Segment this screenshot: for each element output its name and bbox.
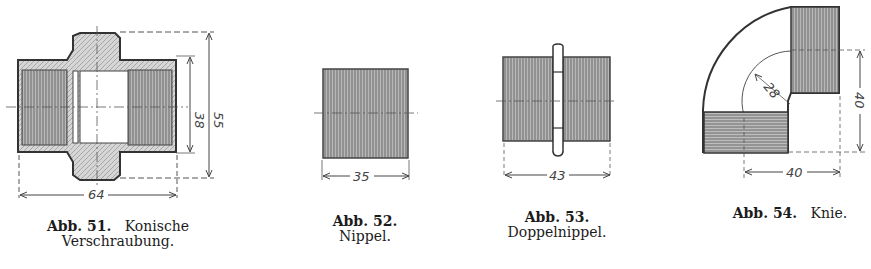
fig53-drawing [496, 44, 616, 181]
fig52-number: Abb. 52. [305, 214, 425, 229]
fig54-dim-height: 40 [852, 92, 867, 109]
fig51-drawing [6, 26, 214, 201]
fig51-dim-width: 64 [88, 187, 105, 202]
fig53-dim-width: 43 [549, 168, 566, 183]
fig54-title: Knie. [811, 205, 848, 221]
fig52-title: Nippel. [305, 229, 425, 244]
fig51-dim-inner: 38 [192, 112, 207, 129]
fig51-title-line1: Konische [125, 218, 189, 234]
fig54-number: Abb. 54. [733, 205, 798, 221]
fig51-number: Abb. 51. [47, 218, 112, 234]
fig51-title-line2: Verschraubung. [18, 234, 218, 249]
fig53-caption: Abb. 53. Doppelnippel. [487, 210, 627, 240]
fig54-dim-width: 40 [786, 165, 803, 180]
fig52-dim-width: 35 [353, 169, 370, 184]
fig51-caption: Abb. 51. Konische Verschraubung. [18, 219, 218, 249]
fig52-caption: Abb. 52. Nippel. [305, 214, 425, 244]
fig53-title: Doppelnippel. [487, 225, 627, 240]
fig54-caption: Abb. 54. Knie. [715, 206, 865, 221]
fig54-drawing [703, 7, 866, 180]
fig53-number: Abb. 53. [487, 210, 627, 225]
fig52-drawing [314, 69, 418, 182]
fig51-dim-outer: 55 [211, 112, 226, 129]
